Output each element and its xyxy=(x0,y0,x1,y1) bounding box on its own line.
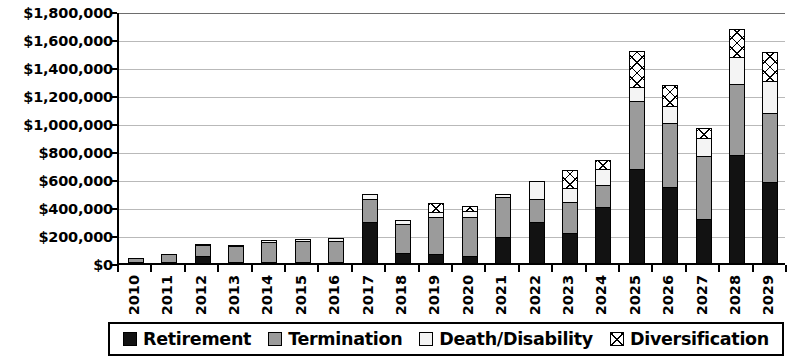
x-axis-tick-mark xyxy=(150,265,152,272)
bar-segment xyxy=(662,187,678,264)
y-axis-tick-mark xyxy=(110,208,117,210)
bar-segment xyxy=(562,188,578,203)
legend-label: Retirement xyxy=(143,329,251,349)
chart-legend: RetirementTerminationDeath/DisabilityDiv… xyxy=(108,322,784,356)
bar-segment xyxy=(362,222,378,264)
y-axis-tick-label: $1,800,000 xyxy=(0,5,113,21)
bar-segment xyxy=(395,253,411,264)
bar-group xyxy=(428,203,444,263)
y-axis-tick-label: $1,600,000 xyxy=(0,33,113,49)
bar-segment xyxy=(261,242,277,263)
bar-group xyxy=(462,206,478,263)
bar-segment xyxy=(729,29,745,58)
x-axis-tick-label: 2024 xyxy=(593,275,609,315)
bar-segment xyxy=(595,185,611,208)
x-axis-tick-label: 2027 xyxy=(694,275,710,315)
y-axis-tick-label: $800,000 xyxy=(0,145,113,161)
x-axis-tick-mark xyxy=(484,265,486,272)
x-axis-tick-mark xyxy=(284,265,286,272)
x-axis-tick-label: 2029 xyxy=(760,275,776,315)
bar-segment xyxy=(495,197,511,238)
x-axis-tick-mark xyxy=(451,265,453,272)
bar-segment xyxy=(529,199,545,224)
bar-series-container xyxy=(119,13,785,263)
x-axis-tick-label: 2019 xyxy=(426,275,442,315)
y-axis-tick-label: $1,400,000 xyxy=(0,61,113,77)
x-axis-tick-label: 2026 xyxy=(660,275,676,315)
x-axis-tick-mark xyxy=(718,265,720,272)
bar-segment xyxy=(529,222,545,264)
bar-group xyxy=(629,51,645,263)
bar-group xyxy=(161,254,177,263)
bar-group xyxy=(261,240,277,263)
x-axis-tick-label: 2013 xyxy=(226,275,242,315)
bar-group xyxy=(328,238,344,263)
x-axis-tick-label: 2017 xyxy=(360,275,376,315)
x-axis-tick-mark xyxy=(217,265,219,272)
bar-segment xyxy=(228,246,244,264)
bar-segment xyxy=(428,217,444,254)
x-axis-tick-label: 2016 xyxy=(326,275,342,315)
bar-segment xyxy=(562,233,578,264)
legend-swatch-icon xyxy=(610,332,624,346)
y-axis-tick-mark xyxy=(110,236,117,238)
x-axis-tick-mark xyxy=(117,265,119,272)
y-axis-labels: $1,800,000$1,600,000$1,400,000$1,200,000… xyxy=(0,0,113,280)
y-axis-tick-mark xyxy=(110,96,117,98)
x-axis-tick-mark xyxy=(317,265,319,272)
y-axis-tick-label: $1,000,000 xyxy=(0,117,113,133)
bar-group xyxy=(595,160,611,263)
x-axis-tick-label: 2011 xyxy=(159,275,175,315)
bar-group xyxy=(696,128,712,263)
legend-swatch-icon xyxy=(123,332,137,346)
x-axis-tick-mark xyxy=(585,265,587,272)
y-axis-tick-label: $0 xyxy=(0,257,113,273)
y-axis-tick-mark xyxy=(110,12,117,14)
bar-segment xyxy=(161,262,177,264)
legend-label: Death/Disability xyxy=(439,329,593,349)
x-axis-tick-mark xyxy=(685,265,687,272)
bar-segment xyxy=(662,106,678,124)
bar-segment xyxy=(729,57,745,85)
legend-item[interactable]: Death/Disability xyxy=(419,329,593,349)
x-axis-tick-mark xyxy=(184,265,186,272)
x-axis-tick-mark xyxy=(418,265,420,272)
bar-segment xyxy=(562,170,578,189)
x-axis-tick-label: 2014 xyxy=(259,275,275,315)
y-axis-tick-mark xyxy=(110,180,117,182)
bar-group xyxy=(362,194,378,263)
x-axis-labels: 2010201120122013201420152016201720182019… xyxy=(117,265,785,315)
x-axis-tick-mark xyxy=(551,265,553,272)
bar-segment xyxy=(662,85,678,107)
bar-group xyxy=(228,245,244,263)
x-axis-tick-label: 2028 xyxy=(727,275,743,315)
x-axis-tick-mark xyxy=(785,265,787,272)
bar-segment xyxy=(729,84,745,155)
bar-segment xyxy=(328,241,344,263)
bar-segment xyxy=(562,202,578,234)
bar-segment xyxy=(762,81,778,114)
x-axis-tick-label: 2020 xyxy=(460,275,476,315)
x-axis-tick-label: 2025 xyxy=(627,275,643,315)
y-axis-tick-mark xyxy=(110,68,117,70)
x-axis-tick-mark xyxy=(752,265,754,272)
bar-group xyxy=(729,29,745,263)
bar-segment xyxy=(529,181,545,199)
legend-item[interactable]: Retirement xyxy=(123,329,251,349)
x-axis-tick-label: 2023 xyxy=(560,275,576,315)
bar-segment xyxy=(362,199,378,224)
bar-segment xyxy=(729,155,745,264)
x-axis-tick-label: 2021 xyxy=(493,275,509,315)
bar-segment xyxy=(696,219,712,264)
legend-item[interactable]: Diversification xyxy=(610,329,769,349)
bar-segment xyxy=(629,51,645,88)
legend-item[interactable]: Termination xyxy=(268,329,402,349)
bar-segment xyxy=(762,52,778,82)
bar-segment xyxy=(328,262,344,264)
bar-segment xyxy=(762,113,778,183)
bar-segment xyxy=(662,123,678,188)
bar-segment xyxy=(629,87,645,102)
y-axis-tick-mark xyxy=(110,152,117,154)
bar-segment xyxy=(395,224,411,254)
bar-group xyxy=(529,181,545,263)
